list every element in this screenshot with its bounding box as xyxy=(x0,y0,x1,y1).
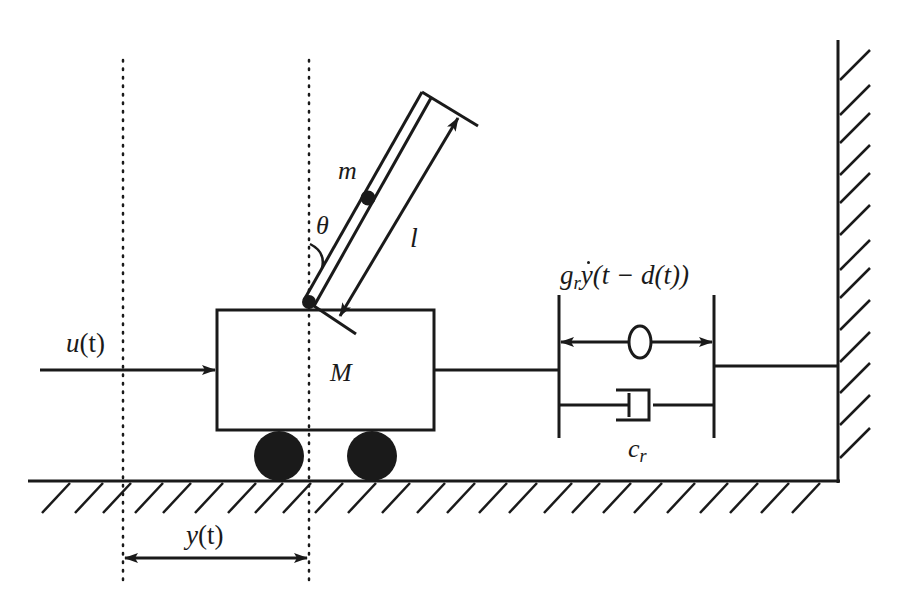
label-cart-mass: M xyxy=(330,360,352,386)
label-pendulum-length: l xyxy=(410,224,418,252)
length-arrow xyxy=(340,118,458,316)
cart-pendulum-diagram xyxy=(0,0,909,606)
label-pendulum-angle: θ xyxy=(316,213,329,239)
resonator-assembly xyxy=(559,295,714,438)
cart-body xyxy=(217,310,434,430)
resonator-expr-fn: y xyxy=(581,262,593,289)
input-force-fn: u xyxy=(66,328,80,358)
damper-sub: r xyxy=(640,446,647,466)
damper-base: c xyxy=(628,434,640,463)
label-input-force: u(t) xyxy=(66,330,105,357)
wall-support xyxy=(838,40,870,483)
displacement-fn: y xyxy=(186,520,198,550)
pendulum-pivot xyxy=(302,295,316,309)
displacement-arg: (t) xyxy=(198,520,223,550)
label-damper: cr xyxy=(628,436,647,465)
wall-hatching xyxy=(840,50,870,458)
label-resonator: gry(t − d(t)) xyxy=(560,262,689,293)
actuator-element xyxy=(629,326,651,358)
ground-support xyxy=(28,481,840,513)
pendulum-mass xyxy=(361,191,376,206)
input-force-arg: (t) xyxy=(80,328,105,358)
resonator-gain-sub: r xyxy=(574,272,581,293)
ground-hatching xyxy=(42,483,820,513)
cart-wheel-right xyxy=(347,431,397,481)
cart-wheel-left xyxy=(254,431,304,481)
angle-arc xyxy=(310,244,323,268)
label-displacement: y(t) xyxy=(186,522,223,549)
resonator-expr-arg: (t − d(t)) xyxy=(593,260,689,290)
pendulum-top-cap xyxy=(422,92,478,126)
resonator-gain: g xyxy=(560,260,574,290)
label-pendulum-mass: m xyxy=(338,158,357,184)
